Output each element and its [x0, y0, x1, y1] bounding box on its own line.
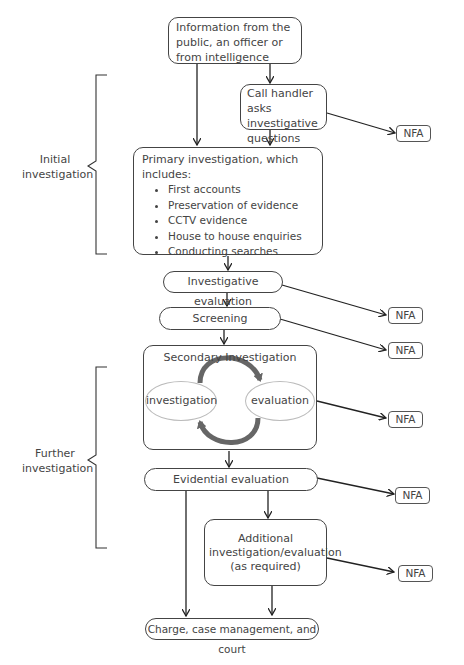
nfa-label: NFA — [395, 344, 415, 356]
info-source-text: Information from the public, an officer … — [176, 21, 290, 64]
call-handler-box: Call handler asks investigative question… — [240, 84, 327, 130]
screening-text: Screening — [193, 312, 248, 325]
info-source-box: Information from the public, an officer … — [168, 17, 302, 64]
screening-box: Screening — [159, 307, 281, 330]
nfa-label: NFA — [402, 489, 422, 501]
list-item: CCTV evidence — [168, 213, 314, 229]
nfa-box-3: NFA — [388, 342, 423, 359]
evidential-evaluation-text: Evidential evaluation — [173, 473, 289, 486]
list-item: Conducting searches — [168, 244, 314, 260]
nfa-label: NFA — [405, 567, 425, 579]
investigative-evaluation-text: Investigative evaluation — [188, 275, 259, 308]
nfa-label: NFA — [395, 309, 415, 321]
brace-text: Initial investigation — [22, 153, 93, 181]
cycle-investigation-ellipse: investigation — [145, 381, 217, 421]
primary-investigation-title: Primary investigation, which includes: — [142, 152, 314, 182]
primary-investigation-box: Primary investigation, which includes: F… — [133, 147, 323, 255]
cycle-evaluation-text: evaluation — [251, 394, 309, 407]
investigative-evaluation-box: Investigative evaluation — [163, 271, 283, 293]
nfa-box-6: NFA — [398, 565, 433, 582]
charge-box: Charge, case management, and court — [145, 618, 319, 640]
additional-investigation-text: Additional investigation/evaluation (as … — [209, 532, 342, 573]
list-item: House to house enquiries — [168, 229, 314, 245]
nfa-box-4: NFA — [388, 411, 423, 428]
initial-investigation-label: Initial investigation — [22, 152, 88, 182]
nfa-box-5: NFA — [395, 487, 430, 504]
cycle-investigation-text: investigation — [146, 394, 217, 407]
cycle-evaluation-ellipse: evaluation — [245, 381, 315, 421]
further-investigation-label: Further investigation — [22, 446, 88, 476]
brace-text: Further investigation — [22, 447, 93, 475]
primary-investigation-list: First accounts Preservation of evidence … — [142, 182, 314, 260]
secondary-investigation-title: Secondary Investigation — [144, 350, 316, 365]
additional-investigation-box: Additional investigation/evaluation (as … — [204, 519, 327, 586]
nfa-label: NFA — [395, 413, 415, 425]
nfa-box-2: NFA — [388, 307, 423, 324]
list-item: Preservation of evidence — [168, 198, 314, 214]
evidential-evaluation-box: Evidential evaluation — [144, 468, 318, 491]
list-item: First accounts — [168, 182, 314, 198]
nfa-label: NFA — [403, 127, 423, 139]
nfa-box-1: NFA — [396, 125, 431, 142]
